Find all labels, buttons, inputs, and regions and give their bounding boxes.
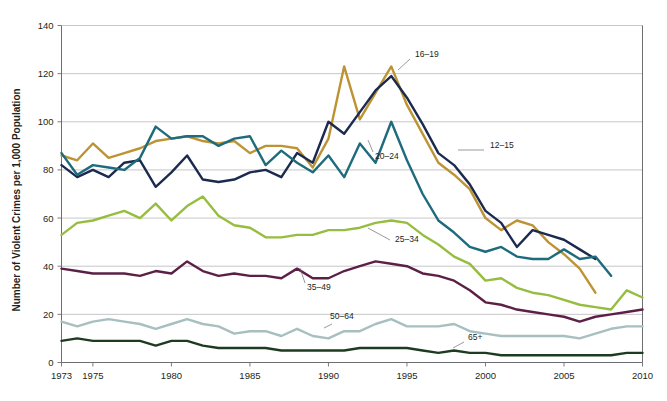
y-tick-label-0: 0	[48, 357, 53, 368]
x-tick-label-2000: 2000	[475, 370, 496, 381]
x-tick-label-1985: 1985	[239, 370, 260, 381]
x-tick-label-1980: 1980	[161, 370, 182, 381]
leader-line-16-19	[398, 59, 410, 70]
series-label-35-49: 35–49	[307, 282, 331, 292]
series-label-65+: 65+	[468, 332, 482, 342]
series-label-12-15: 12–15	[490, 140, 514, 150]
y-tick-label-140: 140	[38, 20, 54, 31]
y-tick-label-80: 80	[43, 164, 54, 175]
leader-line-20-24	[368, 140, 373, 152]
series-line-65+	[62, 338, 643, 355]
series-line-12-15	[62, 66, 596, 292]
violent-crime-victimization-chart: 12–1516–1920–2425–3435–4950–6465+ 020406…	[0, 0, 667, 401]
series-line-50-64	[62, 319, 643, 338]
x-tick-label-1995: 1995	[396, 370, 417, 381]
leader-line-50-64	[324, 324, 332, 328]
series-label-25-34: 25–34	[395, 234, 419, 244]
series-label-20-24: 20–24	[375, 151, 399, 161]
chart-canvas: 12–1516–1920–2425–3435–4950–6465+ 020406…	[0, 0, 667, 401]
x-tick-label-1990: 1990	[318, 370, 339, 381]
y-tick-label-120: 120	[38, 68, 54, 79]
x-tick-label-1973: 1973	[51, 370, 72, 381]
leader-line-65+	[453, 342, 464, 348]
y-tick-label-60: 60	[43, 213, 54, 224]
y-tick-label-20: 20	[43, 309, 54, 320]
series-label-50-64: 50–64	[330, 311, 354, 321]
series-line-16-19	[62, 76, 596, 259]
series-label-16-19: 16–19	[415, 49, 439, 59]
series-line-25-34	[62, 196, 643, 309]
leader-line-25-34	[368, 228, 390, 240]
series-leader-lines	[300, 59, 484, 348]
y-tick-label-40: 40	[43, 261, 54, 272]
y-tick-label-100: 100	[38, 116, 54, 127]
x-tick-label-2005: 2005	[553, 370, 574, 381]
series-line-20-24	[62, 122, 612, 276]
leader-line-35-49	[300, 268, 305, 283]
y-axis-title: Number of Violent Crimes per 1,000 Popul…	[11, 88, 22, 311]
x-tick-label-2010: 2010	[632, 370, 653, 381]
x-tick-label-1975: 1975	[82, 370, 103, 381]
